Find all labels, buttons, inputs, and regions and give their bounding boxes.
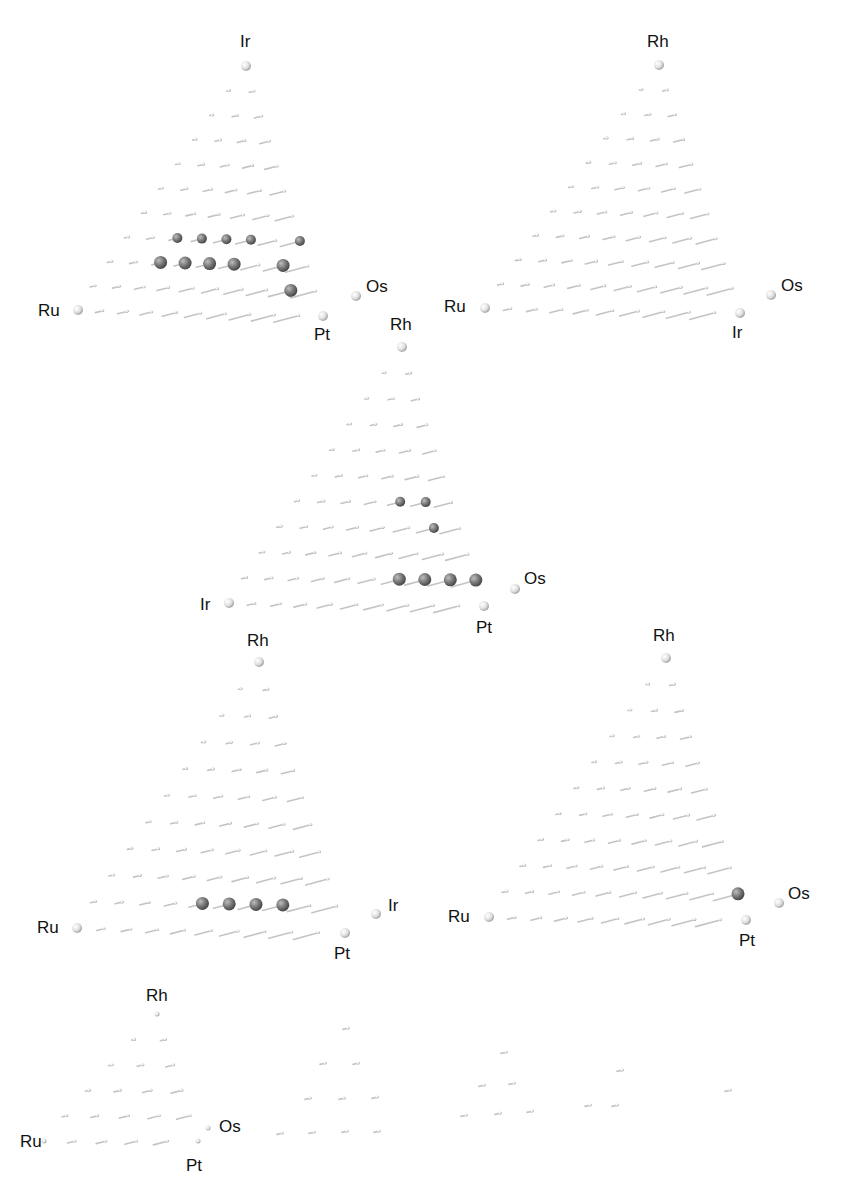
composition-point bbox=[687, 310, 690, 313]
composition-point bbox=[579, 210, 582, 213]
composition-point bbox=[112, 873, 115, 876]
composition-point bbox=[513, 916, 516, 919]
composition-point bbox=[648, 113, 651, 116]
composition-point bbox=[177, 162, 180, 165]
composition-point bbox=[300, 796, 303, 799]
vertex-sphere-rh bbox=[155, 1012, 160, 1017]
composition-point bbox=[157, 1114, 160, 1117]
composition-point bbox=[347, 577, 350, 580]
highlighted-composition-sphere bbox=[276, 898, 289, 911]
composition-point bbox=[305, 525, 308, 528]
composition-streak bbox=[275, 851, 293, 856]
composition-point bbox=[645, 761, 648, 764]
composition-point bbox=[662, 310, 665, 313]
composition-point bbox=[565, 916, 568, 919]
composition-point bbox=[283, 742, 286, 745]
composition-streak bbox=[655, 262, 674, 267]
composition-point bbox=[643, 839, 646, 842]
composition-point bbox=[147, 901, 150, 904]
composition-point bbox=[464, 1113, 467, 1116]
composition-point bbox=[156, 928, 159, 931]
composition-point bbox=[166, 793, 169, 796]
composition-point bbox=[199, 311, 202, 314]
composition-point bbox=[618, 839, 621, 842]
composition-point bbox=[203, 740, 206, 743]
composition-point bbox=[425, 423, 428, 426]
highlighted-composition-sphere bbox=[284, 284, 297, 297]
composition-point bbox=[450, 501, 453, 504]
composition-streak bbox=[602, 919, 619, 923]
vertex-sphere-ir bbox=[241, 61, 251, 71]
composition-point bbox=[380, 603, 383, 606]
element-label-pt: Pt bbox=[314, 326, 330, 343]
composition-point bbox=[252, 89, 255, 92]
composition-point bbox=[118, 285, 121, 288]
composition-point bbox=[498, 1111, 501, 1114]
composition-point bbox=[331, 448, 334, 451]
composition-point bbox=[283, 189, 286, 192]
highlighted-composition-sphere bbox=[246, 235, 256, 245]
composition-point bbox=[711, 892, 714, 895]
vertex-sphere-ir bbox=[735, 308, 745, 318]
composition-point bbox=[505, 890, 508, 893]
element-label-ir: Ir bbox=[200, 596, 210, 613]
panel-bottom-left bbox=[72, 657, 381, 939]
composition-point bbox=[185, 767, 188, 770]
composition-point bbox=[274, 795, 277, 798]
composition-streak bbox=[410, 605, 434, 611]
composition-point bbox=[549, 864, 552, 867]
composition-point bbox=[346, 1026, 349, 1029]
composition-point bbox=[566, 838, 569, 841]
composition-point bbox=[695, 840, 698, 843]
composition-point bbox=[441, 552, 444, 555]
composition-point bbox=[329, 603, 332, 606]
highlighted-composition-sphere bbox=[221, 234, 231, 244]
composition-streak bbox=[620, 893, 637, 897]
composition-point bbox=[194, 138, 197, 141]
composition-point bbox=[655, 211, 658, 214]
composition-point bbox=[345, 1129, 348, 1132]
composition-point bbox=[219, 138, 222, 141]
composition-point bbox=[245, 576, 248, 579]
composition-point bbox=[273, 876, 276, 879]
composition-streak bbox=[293, 933, 319, 940]
composition-point bbox=[558, 812, 561, 815]
composition-point bbox=[509, 307, 512, 310]
composition-point bbox=[102, 927, 105, 930]
composition-point bbox=[228, 89, 231, 92]
composition-point bbox=[297, 499, 300, 502]
composition-streak bbox=[643, 312, 664, 318]
composition-streak bbox=[440, 528, 461, 533]
composition-point bbox=[620, 260, 623, 263]
composition-point bbox=[663, 735, 666, 738]
element-label-os: Os bbox=[788, 885, 810, 902]
composition-point bbox=[712, 814, 715, 817]
composition-point bbox=[569, 259, 572, 262]
highlighted-composition-sphere bbox=[418, 573, 431, 586]
composition-point bbox=[248, 714, 251, 717]
composition-point bbox=[164, 1038, 167, 1041]
composition-point bbox=[314, 289, 317, 292]
composition-point bbox=[697, 261, 700, 264]
composition-point bbox=[366, 397, 369, 400]
composition-point bbox=[646, 260, 649, 263]
element-label-os: Os bbox=[781, 277, 803, 294]
composition-point bbox=[312, 1130, 315, 1133]
vertex-sphere-os bbox=[351, 291, 361, 301]
element-label-rh: Rh bbox=[647, 33, 669, 50]
composition-point bbox=[234, 188, 237, 191]
composition-point bbox=[637, 734, 640, 737]
composition-point bbox=[560, 308, 563, 311]
vertex-sphere-rh bbox=[661, 653, 671, 663]
composition-streak bbox=[703, 841, 724, 846]
composition-point bbox=[431, 604, 434, 607]
composition-point bbox=[536, 234, 539, 237]
composition-streak bbox=[667, 893, 688, 899]
composition-point bbox=[183, 928, 186, 931]
composition-point bbox=[304, 602, 307, 605]
composition-point bbox=[679, 286, 682, 289]
composition-point bbox=[292, 769, 295, 772]
composition-point bbox=[576, 786, 579, 789]
composition-point bbox=[258, 189, 261, 192]
composition-point bbox=[391, 397, 394, 400]
